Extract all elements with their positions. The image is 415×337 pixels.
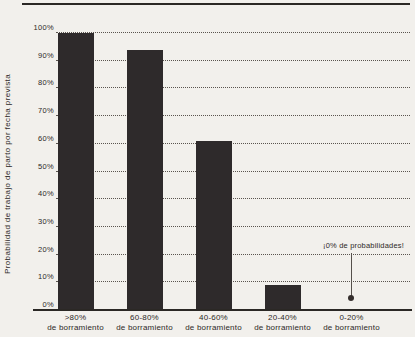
- bar-20-40%: [265, 285, 301, 310]
- x-axis-label-range: 0-20%: [317, 313, 386, 323]
- x-axis-label-range: >80%: [41, 313, 110, 323]
- x-axis-label-0-20%: 0-20%de borramiento: [317, 313, 386, 333]
- x-axis-label-range: 60-80%: [110, 313, 179, 323]
- x-axis-label-suffix: de borramiento: [41, 323, 110, 333]
- bar-column-60-80%: [110, 33, 179, 310]
- annotation-dot: [348, 295, 354, 301]
- bar-40-60%: [196, 141, 232, 310]
- top-divider-rule: [22, 3, 410, 5]
- x-axis-label-40-60%: 40-60%de borramiento: [179, 313, 248, 333]
- annotation-leader-line: [351, 253, 352, 296]
- bar-60-80%: [127, 50, 163, 310]
- x-axis-label-suffix: de borramiento: [317, 323, 386, 333]
- x-axis-label-suffix: de borramiento: [179, 323, 248, 333]
- x-axis-labels: >80%de borramiento60-80%de borramiento40…: [41, 313, 386, 333]
- x-axis-label-range: 20-40%: [248, 313, 317, 323]
- y-tick-label-100: 100%: [34, 23, 54, 32]
- x-axis-label-range: 40-60%: [179, 313, 248, 323]
- x-axis-line: [33, 309, 412, 311]
- x-axis-label-suffix: de borramiento: [248, 323, 317, 333]
- x-axis-label-60-80%: 60-80%de borramiento: [110, 313, 179, 333]
- bar-column-40-60%: [179, 33, 248, 310]
- bar-column-20-40%: [248, 33, 317, 310]
- bar->80%: [58, 33, 94, 310]
- annotation-text: ¡0% de probabilidades!: [313, 241, 414, 250]
- bar-column->80%: [41, 33, 110, 310]
- x-axis-label->80%: >80%de borramiento: [41, 313, 110, 333]
- x-axis-label-20-40%: 20-40%de borramiento: [248, 313, 317, 333]
- y-axis-title: Probabilidad de trabajo de parto por fec…: [2, 24, 14, 324]
- x-axis-label-suffix: de borramiento: [110, 323, 179, 333]
- effacement-probability-chart: Probabilidad de trabajo de parto por fec…: [0, 0, 415, 337]
- bars-layer: [41, 33, 386, 310]
